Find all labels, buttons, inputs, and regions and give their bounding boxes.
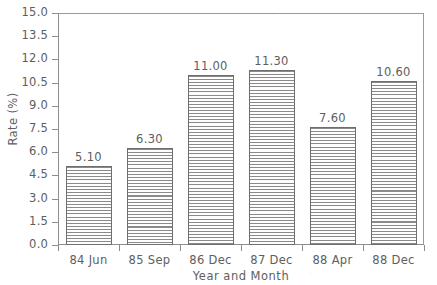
x-axis-tick (424, 245, 425, 251)
y-axis-title: Rate (%) (6, 84, 20, 154)
bar-value-label: 11.00 (181, 59, 241, 73)
bar (310, 127, 356, 245)
y-axis-tick-label: 13.5 (22, 30, 48, 42)
y-axis-tick (52, 222, 58, 223)
y-axis-tick (52, 59, 58, 60)
x-axis-category-label: 85 Sep (116, 253, 184, 267)
y-axis-tick (52, 83, 58, 84)
x-axis-category-label: 88 Dec (360, 253, 428, 267)
y-axis-tick-label: 0.0 (29, 239, 48, 251)
y-axis-tick (52, 175, 58, 176)
x-axis-category-label: 88 Apr (299, 253, 367, 267)
y-axis-tick (52, 36, 58, 37)
y-axis-tick (52, 152, 58, 153)
x-axis-tick (119, 245, 120, 251)
x-axis-category-label: 87 Dec (238, 253, 306, 267)
bar (371, 81, 417, 245)
y-axis-tick-label: 10.5 (22, 77, 48, 89)
bar (188, 75, 234, 245)
bar-value-label: 11.30 (242, 54, 302, 68)
bar-value-label: 5.10 (59, 150, 119, 164)
x-axis-tick (180, 245, 181, 251)
x-axis-tick (363, 245, 364, 251)
y-axis-tick-label: 1.5 (29, 216, 48, 228)
y-axis-tick-label: 12.0 (22, 54, 48, 66)
bar-value-label: 10.60 (364, 65, 424, 79)
bar-chart: Rate (%) 0.01.53.04.56.07.59.010.512.013… (0, 0, 437, 285)
bar-value-label: 6.30 (120, 132, 180, 146)
y-axis-tick (52, 199, 58, 200)
y-axis-tick-label: 7.5 (29, 123, 48, 135)
y-axis-tick-label: 9.0 (29, 100, 48, 112)
x-axis-title: Year and Month (58, 269, 424, 283)
y-axis-tick-label: 15.0 (22, 7, 48, 19)
y-axis-tick-label: 6.0 (29, 146, 48, 158)
y-axis-tick-label: 3.0 (29, 193, 48, 205)
bar (249, 70, 295, 245)
y-axis-tick (52, 129, 58, 130)
plot-area-frame (58, 13, 424, 245)
bar (127, 148, 173, 245)
bar-value-label: 7.60 (303, 111, 363, 125)
x-axis-tick (302, 245, 303, 251)
x-axis-tick (241, 245, 242, 251)
y-axis-tick-label: 4.5 (29, 170, 48, 182)
x-axis-category-label: 84 Jun (55, 253, 123, 267)
bar (66, 166, 112, 245)
x-axis-tick (58, 245, 59, 251)
y-axis-tick (52, 106, 58, 107)
y-axis-tick (52, 13, 58, 14)
x-axis-category-label: 86 Dec (177, 253, 245, 267)
